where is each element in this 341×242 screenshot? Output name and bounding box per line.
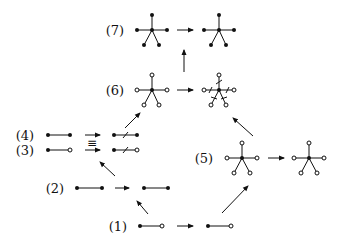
- star-5-right: [292, 141, 326, 175]
- edge-4-left: [46, 133, 72, 137]
- edge-3-right-crossed: [112, 147, 139, 153]
- edge-3-left: [46, 148, 72, 152]
- diagram-canvas: (7) (6) (4) (3) (5) (2) (1): [0, 0, 341, 242]
- star-6-left: [135, 73, 169, 107]
- star-7-left: [135, 13, 169, 47]
- label-6: (6): [106, 83, 124, 98]
- star-5-left: [225, 141, 259, 175]
- edge-2-right: [142, 186, 170, 190]
- label-1: (1): [109, 219, 127, 234]
- arrow-5-to-6: [233, 118, 253, 136]
- star-7-right: [202, 13, 236, 47]
- label-5: (5): [195, 151, 213, 166]
- edge-4-right-crossed: [112, 132, 139, 138]
- arrow-3-to-6: [125, 113, 140, 128]
- label-2: (2): [46, 181, 64, 196]
- edge-1-right: [206, 224, 233, 228]
- label-7: (7): [106, 23, 124, 38]
- star-6-right-crossed: [202, 73, 236, 107]
- arrow-1-to-5: [222, 186, 248, 213]
- equivalence-symbol: ≡: [87, 136, 97, 150]
- arrow-1-to-2: [137, 201, 148, 214]
- label-3: (3): [16, 143, 34, 158]
- arrow-2-to-3: [100, 162, 115, 176]
- edge-2-left: [75, 186, 104, 190]
- label-4: (4): [16, 128, 34, 143]
- edge-1-left: [138, 224, 164, 228]
